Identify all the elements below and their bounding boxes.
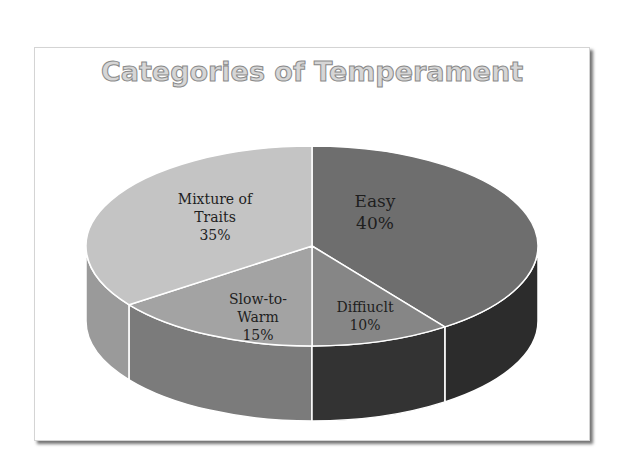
slice-percent: 35% [155, 226, 275, 244]
pie-chart [0, 0, 624, 465]
slice-label-easy: Easy 40% [330, 190, 420, 234]
slice-name: Diffiuclt [320, 298, 410, 316]
slice-percent: 40% [330, 212, 420, 234]
slice-name: Traits [155, 208, 275, 226]
slice-name: Mixture of [155, 190, 275, 208]
slice-name: Easy [330, 190, 420, 212]
slice-name: Slow-to- [203, 290, 313, 308]
slice-label-mixture-of-traits: Mixture of Traits 35% [155, 190, 275, 244]
slice-name: Warm [203, 308, 313, 326]
slice-label-slow-to-warm: Slow-to- Warm 15% [203, 290, 313, 344]
slice-percent: 15% [203, 326, 313, 344]
slice-label-difficult: Diffiuclt 10% [320, 298, 410, 334]
slice-percent: 10% [320, 316, 410, 334]
